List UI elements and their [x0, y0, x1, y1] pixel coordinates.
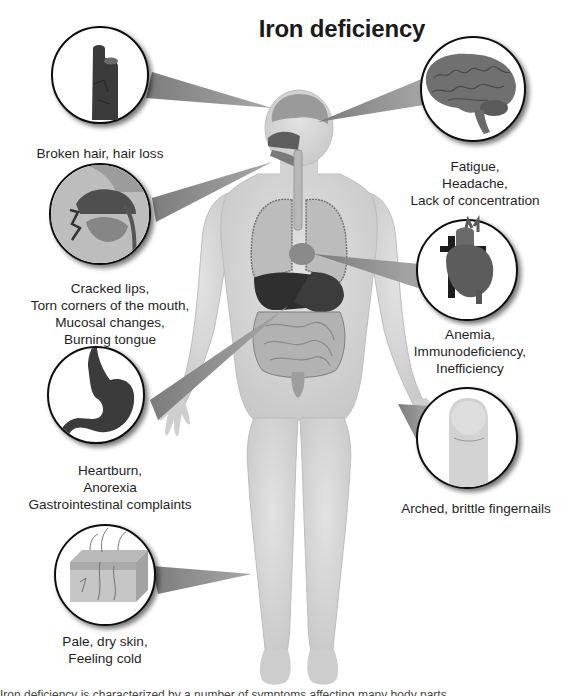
callout-label-stomach: Heartburn, Anorexia Gastrointestinal com…	[10, 462, 210, 513]
mouth-cross-section-icon	[50, 164, 150, 264]
callout-label-fingernail: Arched, brittle fingernails	[386, 500, 566, 517]
pointer-brain	[318, 78, 430, 122]
callout-label-mouth: Cracked lips, Torn corners of the mouth,…	[10, 280, 210, 348]
fingernail-icon	[417, 388, 517, 488]
skin-layers-icon	[55, 525, 155, 625]
pointer-hair	[146, 72, 272, 108]
callout-label-skin: Pale, dry skin, Feeling cold	[40, 633, 170, 667]
brain-icon	[421, 37, 525, 141]
pointer-skin	[152, 566, 252, 594]
hair-strand-icon	[52, 27, 148, 123]
diagram-title: Iron deficiency	[222, 15, 462, 43]
callout-label-heart: Anemia, Immunodeficiency, Inefficiency	[390, 326, 550, 377]
stomach-icon	[48, 347, 144, 443]
callout-label-hair: Broken hair, hair loss	[10, 145, 190, 162]
heart-icon	[417, 220, 517, 320]
clipped-caption: Iron deficiency is characterized by a nu…	[0, 688, 568, 696]
callout-label-brain: Fatigue, Headache, Lack of concentration	[390, 158, 560, 209]
iron-deficiency-diagram: Iron deficiency Broken hair, hair loss F…	[0, 0, 568, 696]
